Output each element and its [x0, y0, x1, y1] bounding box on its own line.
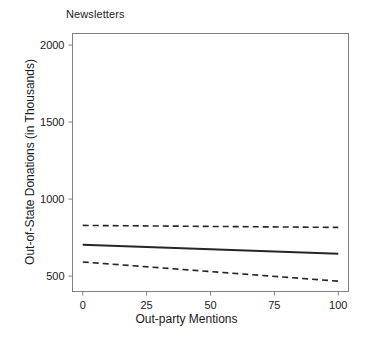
x-axis-label: Out-party Mentions [0, 312, 373, 326]
x-axis-tick-label: 25 [140, 299, 152, 311]
x-axis-tick-label: 75 [268, 299, 280, 311]
chart-line-dashed [83, 225, 339, 227]
chart-line-dashed [83, 262, 339, 281]
chart-figure: Newsletters 500100015002000 0255075100 O… [0, 0, 373, 341]
y-axis-tick-label: 1000 [40, 193, 64, 205]
y-axis-tick-label: 500 [46, 270, 64, 282]
y-axis-ticks [69, 45, 73, 276]
x-axis-tick-label: 0 [80, 299, 86, 311]
x-axis-tick-label: 50 [204, 299, 216, 311]
chart-series-lines [83, 225, 339, 281]
y-axis-label-wrapper: Out-of-State Donations (in Thousands) [20, 22, 38, 302]
x-axis-tick-label: 100 [329, 299, 347, 311]
x-axis-ticks [83, 292, 339, 296]
y-axis-tick-label: 2000 [40, 39, 64, 51]
chart-plot-area [0, 0, 373, 341]
chart-line-solid [83, 245, 339, 254]
y-axis-label: Out-of-State Donations (in Thousands) [23, 59, 37, 265]
y-axis-tick-label: 1500 [40, 116, 64, 128]
